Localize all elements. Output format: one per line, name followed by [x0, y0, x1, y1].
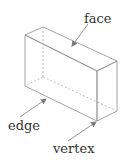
edge-label: edge [8, 118, 40, 133]
visible-edges [25, 27, 117, 121]
vertex-label: vertex [52, 141, 95, 156]
prism-diagram: face edge vertex [0, 0, 124, 163]
vertex-arrow [68, 122, 96, 141]
face-arrow [72, 24, 88, 46]
face-label: face [84, 11, 112, 26]
edge-arrow [20, 99, 46, 117]
